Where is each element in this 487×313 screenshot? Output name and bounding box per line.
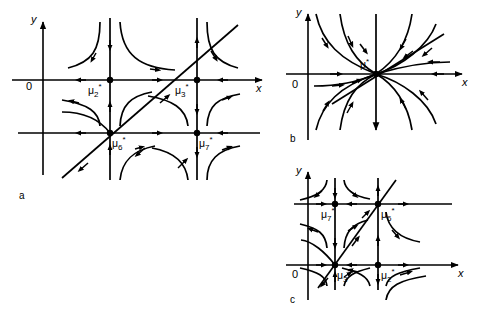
svg-text:μ2*: μ2* <box>88 82 102 99</box>
panel-a-panel-label: a <box>19 190 25 201</box>
svg-text:μ7*: μ7* <box>321 206 335 223</box>
svg-text:μ6*: μ6* <box>381 206 395 223</box>
svg-text:μ7*: μ7* <box>199 135 213 152</box>
svg-text:μ3*: μ3* <box>337 267 351 284</box>
panel-b-origin-label: 0 <box>292 78 298 90</box>
phase-portrait-figure: 0 y x a μ2* μ3* μ6* μ7* <box>0 0 487 313</box>
panel-c-label-mu6: μ6* <box>381 206 395 223</box>
panel-a-label-mu6: μ6* <box>112 135 126 152</box>
panel-a-label-mu2: μ2* <box>88 82 102 99</box>
figure-canvas: 0 y x a μ2* μ3* μ6* μ7* <box>0 0 487 313</box>
panel-b-y-axis-label: y <box>295 6 303 18</box>
panel-c-x-axis-label: x <box>457 267 464 279</box>
panel-c-label-mu7: μ7* <box>321 206 335 223</box>
panel-a-label-mu7: μ7* <box>199 135 213 152</box>
panel-c-y-axis-label: y <box>295 164 303 176</box>
panel-c: 0 y x c μ7* μ6* μ3* μ2* <box>286 164 464 305</box>
panel-c-trajectories <box>300 180 426 300</box>
panel-b-x-axis-label: x <box>461 76 468 88</box>
panel-a-node-mu3 <box>194 77 200 83</box>
panel-c-origin-label: 0 <box>292 268 298 280</box>
svg-text:μ6*: μ6* <box>112 135 126 152</box>
panel-c-panel-label: c <box>290 294 295 305</box>
panel-a-origin-label: 0 <box>26 80 32 92</box>
svg-text:μ2*: μ2* <box>381 267 395 284</box>
panel-c-label-mu2: μ2* <box>381 267 395 284</box>
panel-a-x-axis-label: x <box>255 82 262 94</box>
panel-a-node-mu2 <box>107 77 113 83</box>
panel-c-label-mu3: μ3* <box>337 267 351 284</box>
panel-a-y-axis-label: y <box>30 13 38 25</box>
panel-a-node-mu7 <box>194 130 200 136</box>
panel-c-node-mu6 <box>375 201 381 207</box>
panel-a-label-mu3: μ3* <box>175 82 189 99</box>
panel-b-trajectories <box>314 14 450 130</box>
svg-text:μ3*: μ3* <box>175 82 189 99</box>
panel-b: 0 y x b μ* <box>286 6 468 144</box>
panel-a: 0 y x a μ2* μ3* μ6* μ7* <box>12 13 262 201</box>
panel-b-panel-label: b <box>290 133 296 144</box>
panel-c-node-mu2 <box>375 262 381 268</box>
